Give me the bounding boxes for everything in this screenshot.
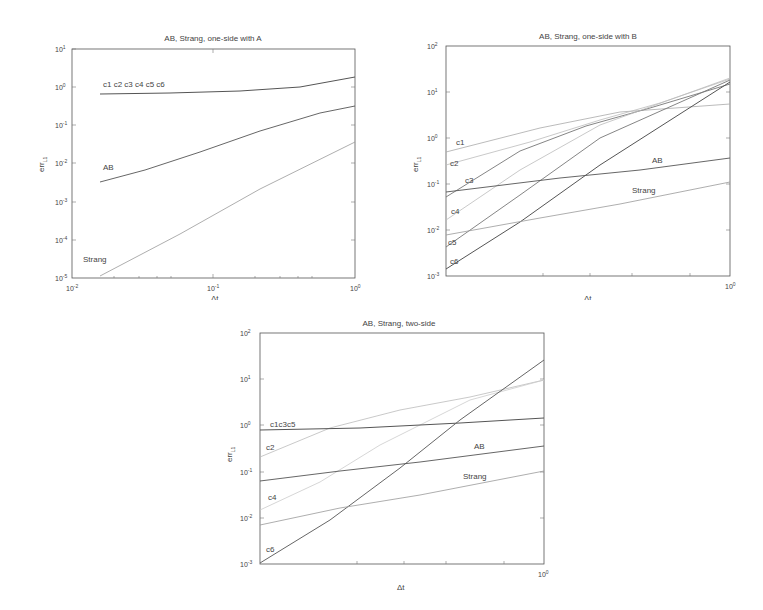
series-ab	[446, 158, 730, 192]
label-c2: c2	[450, 159, 459, 168]
chart-two-side: AB, Strang, two-side 102 101 100 10-1 10…	[200, 300, 580, 610]
label-c1-c3-c5: c1c3c5	[270, 420, 296, 429]
series-ab	[100, 106, 355, 182]
svg-text:10-2: 10-2	[55, 158, 67, 167]
label-c6: c6	[266, 545, 275, 554]
svg-text:100: 100	[725, 281, 736, 290]
chart-title: AB, Strang, one-side with B	[539, 32, 637, 41]
svg-text:100: 100	[350, 283, 361, 292]
chart-title: AB, Strang, two-side	[363, 319, 436, 328]
svg-text:101: 101	[55, 44, 66, 53]
svg-text:10-3: 10-3	[55, 197, 67, 206]
label-strang: Strang	[632, 186, 656, 195]
series-c3	[446, 84, 730, 197]
chart-one-side-with-a: AB, Strang, one-side with A 101 100 10-1…	[0, 0, 380, 300]
label-c1: c1	[456, 138, 465, 147]
y-axis-label: errL1	[37, 156, 48, 172]
svg-text:10-1: 10-1	[240, 467, 252, 476]
svg-text:10-3: 10-3	[240, 559, 252, 568]
label-ab: AB	[474, 442, 485, 451]
y-axis	[72, 49, 355, 240]
svg-text:10-1: 10-1	[427, 179, 439, 188]
series-c1	[446, 104, 730, 152]
label-strang: Strang	[83, 255, 107, 264]
label-strang: Strang	[463, 472, 487, 481]
x-axis	[543, 273, 690, 276]
svg-text:10-4: 10-4	[55, 235, 67, 244]
series-c1-c3-c5	[260, 418, 544, 430]
label-c6: c6	[450, 257, 459, 266]
label-ab: AB	[103, 163, 114, 172]
label-c4: c4	[451, 207, 460, 216]
svg-text:10-2: 10-2	[240, 513, 252, 522]
series-strang	[260, 471, 544, 525]
svg-text:10-5: 10-5	[55, 273, 67, 282]
svg-text:100: 100	[538, 569, 549, 578]
y-axis-label: errL1	[225, 446, 236, 462]
label-c4: c4	[268, 493, 277, 502]
x-axis-label: Δt	[584, 294, 592, 300]
y-tick-labels: 102 101 100 10-1 10-2 10-3	[240, 328, 252, 568]
svg-text:100: 100	[427, 133, 438, 142]
x-axis-label: Δt	[397, 583, 405, 592]
plot-frame	[260, 333, 544, 564]
svg-text:10-2: 10-2	[66, 283, 78, 292]
x-tick-labels: 10-2 10-1 100	[66, 283, 361, 292]
y-tick-labels: 102 101 100 10-1 10-2 10-3	[427, 41, 439, 280]
label-c-group: c1 c2 c3 c4 c5 c6	[103, 80, 165, 89]
svg-text:100: 100	[240, 420, 251, 429]
chart-one-side-with-b: AB, Strang, one-side with B 102 101 100 …	[380, 0, 763, 300]
svg-text:101: 101	[240, 374, 251, 383]
series-strang	[100, 142, 355, 276]
x-tick-labels: 100	[725, 281, 736, 290]
svg-text:102: 102	[427, 41, 438, 50]
series-c4	[260, 380, 544, 510]
chart-title: AB, Strang, one-side with A	[164, 34, 262, 43]
svg-text:10-3: 10-3	[427, 271, 439, 280]
label-c5: c5	[448, 238, 457, 247]
svg-text:101: 101	[427, 87, 438, 96]
svg-text:102: 102	[240, 328, 251, 337]
y-axis	[260, 379, 544, 518]
series-strang	[446, 182, 730, 235]
svg-text:10-2: 10-2	[427, 225, 439, 234]
series-ab	[260, 446, 544, 481]
label-c2: c2	[266, 443, 275, 452]
svg-text:10-1: 10-1	[207, 283, 219, 292]
x-tick-labels: 100	[538, 569, 549, 578]
label-ab: AB	[652, 156, 663, 165]
label-c3: c3	[465, 176, 474, 185]
x-axis	[357, 561, 504, 564]
svg-text:100: 100	[55, 82, 66, 91]
y-tick-labels: 101 100 10-1 10-2 10-3 10-4 10-5	[55, 44, 67, 282]
y-axis-label: errL1	[411, 156, 422, 172]
svg-text:10-1: 10-1	[55, 120, 67, 129]
series-c6	[260, 360, 544, 563]
series-c2	[446, 79, 730, 165]
